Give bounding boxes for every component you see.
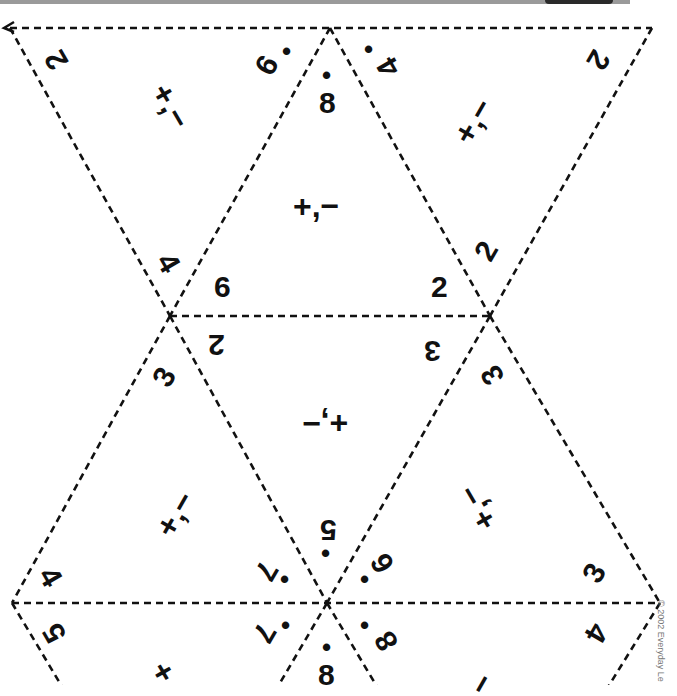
- bc-number-8: 8: [318, 660, 335, 690]
- br-dot: •: [360, 612, 369, 638]
- ml-dot: •: [280, 566, 289, 592]
- bl-dot: •: [281, 612, 290, 638]
- bc-dot: •: [322, 634, 331, 660]
- mc-operation: +,−: [302, 408, 348, 440]
- mc-number-3: 3: [424, 336, 441, 366]
- tr-dot: •: [364, 36, 373, 62]
- tc-dot: •: [322, 62, 331, 88]
- mc-dot: •: [321, 540, 330, 566]
- copyright-text: © 2002 Everyday Le: [656, 600, 666, 682]
- mc-number-2: 2: [208, 330, 225, 360]
- tc-number-6: 6: [214, 272, 231, 302]
- tl-dot: •: [282, 38, 291, 64]
- tc-number-8: 8: [319, 88, 336, 118]
- tc-operation: +,−: [293, 190, 339, 222]
- tc-number-2: 2: [431, 272, 448, 302]
